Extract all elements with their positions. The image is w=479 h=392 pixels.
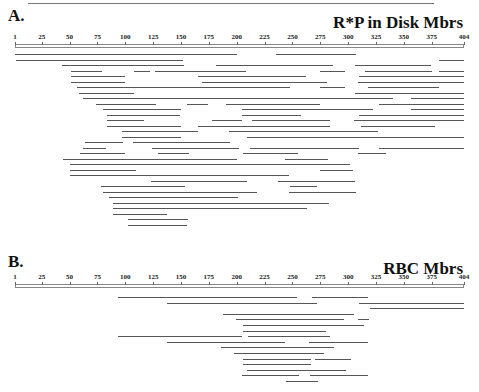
tick-label: 350 bbox=[399, 273, 410, 281]
tick-mark bbox=[292, 282, 293, 285]
peptide-segment bbox=[243, 325, 363, 326]
tick-mark bbox=[15, 282, 16, 285]
peptide-segment bbox=[315, 359, 352, 360]
peptide-segment bbox=[252, 120, 330, 121]
peptide-segment bbox=[242, 109, 372, 110]
tick-mark bbox=[181, 42, 182, 45]
peptide-segment bbox=[107, 126, 181, 127]
peptide-segment bbox=[16, 60, 183, 61]
tick-mark bbox=[209, 282, 210, 285]
tick-mark bbox=[97, 282, 98, 285]
tick-label: 404 bbox=[459, 33, 470, 41]
peptide-segment bbox=[358, 153, 386, 154]
peptide-segment bbox=[109, 197, 238, 198]
peptide-segment bbox=[128, 225, 187, 226]
tick-label: 50 bbox=[66, 273, 73, 281]
peptide-segment bbox=[361, 126, 435, 127]
peptide-segment bbox=[103, 192, 257, 193]
peptide-segment bbox=[118, 297, 297, 298]
tick-label: 375 bbox=[426, 33, 437, 41]
ruler-bar bbox=[15, 44, 464, 48]
peptide-segment bbox=[103, 109, 181, 110]
tick-label: 275 bbox=[315, 33, 326, 41]
peptide-segment bbox=[285, 159, 328, 160]
tick-label: 275 bbox=[315, 273, 326, 281]
tick-label: 25 bbox=[38, 273, 45, 281]
peptide-segment bbox=[122, 131, 198, 132]
tick-label: 175 bbox=[204, 273, 215, 281]
tick-mark bbox=[404, 282, 405, 285]
peptide-segment bbox=[198, 76, 306, 77]
peptide-segment bbox=[70, 175, 289, 176]
tick-mark bbox=[265, 42, 266, 45]
tick-mark bbox=[292, 42, 293, 45]
peptide-segment bbox=[80, 153, 126, 154]
tick-label: 325 bbox=[371, 273, 382, 281]
peptide-segment bbox=[243, 153, 298, 154]
peptide-segment bbox=[198, 126, 331, 127]
tick-mark bbox=[432, 282, 433, 285]
peptide-segment bbox=[167, 342, 285, 343]
peptide-segment bbox=[358, 319, 369, 320]
peptide-segment bbox=[128, 219, 188, 220]
peptide-segment bbox=[320, 71, 345, 72]
peptide-segment bbox=[359, 115, 464, 116]
panel-a-label: A. bbox=[8, 6, 25, 26]
peptide-segment bbox=[312, 297, 368, 298]
peptide-segment bbox=[247, 137, 464, 138]
tick-mark bbox=[125, 282, 126, 285]
peptide-segment bbox=[71, 76, 126, 77]
tick-mark bbox=[320, 282, 321, 285]
peptide-segment bbox=[411, 98, 464, 99]
peptide-segment bbox=[155, 71, 245, 72]
tick-mark bbox=[237, 42, 238, 45]
tick-mark bbox=[464, 42, 465, 45]
peptide-segment bbox=[439, 71, 464, 72]
peptide-segment bbox=[242, 115, 301, 116]
peptide-segment bbox=[187, 104, 208, 105]
tick-label: 225 bbox=[259, 33, 270, 41]
peptide-segment bbox=[359, 303, 464, 304]
tick-label: 1 bbox=[13, 33, 17, 41]
peptide-segment bbox=[279, 98, 393, 99]
peptide-segment bbox=[365, 71, 432, 72]
peptide-segment bbox=[113, 203, 329, 204]
panel-b-ruler: 1255075100125150175200225250275300325350… bbox=[0, 273, 479, 297]
peptide-segment bbox=[286, 381, 318, 382]
tick-label: 75 bbox=[94, 33, 101, 41]
peptide-segment bbox=[113, 214, 166, 215]
peptide-segment bbox=[355, 93, 464, 94]
peptide-segment bbox=[15, 54, 237, 55]
peptide-segment bbox=[221, 347, 334, 348]
peptide-segment bbox=[118, 336, 243, 337]
peptide-segment bbox=[71, 82, 126, 83]
peptide-segment bbox=[379, 148, 464, 149]
peptide-segment bbox=[320, 87, 345, 88]
peptide-segment bbox=[202, 82, 327, 83]
peptide-segment bbox=[152, 148, 239, 149]
peptide-segment bbox=[226, 104, 321, 105]
peptide-segment bbox=[77, 87, 290, 88]
tick-mark bbox=[153, 282, 154, 285]
tick-label: 200 bbox=[231, 33, 242, 41]
tick-label: 100 bbox=[120, 33, 131, 41]
tick-mark bbox=[348, 282, 349, 285]
peptide-segment bbox=[319, 164, 350, 165]
tick-label: 125 bbox=[148, 33, 159, 41]
tick-label: 75 bbox=[94, 273, 101, 281]
peptide-segment bbox=[289, 192, 356, 193]
peptide-segment bbox=[250, 148, 359, 149]
peptide-segment bbox=[70, 164, 330, 165]
peptide-segment bbox=[276, 54, 356, 55]
peptide-segment bbox=[439, 60, 464, 61]
peptide-segment bbox=[320, 170, 352, 171]
tick-mark bbox=[15, 42, 16, 45]
peptide-segment bbox=[411, 109, 464, 110]
peptide-segment bbox=[70, 170, 137, 171]
peptide-segment bbox=[379, 104, 464, 105]
peptide-segment bbox=[107, 120, 144, 121]
peptide-segment bbox=[370, 308, 464, 309]
peptide-segment bbox=[85, 142, 123, 143]
tick-label: 150 bbox=[176, 273, 187, 281]
top-rule bbox=[28, 3, 434, 4]
